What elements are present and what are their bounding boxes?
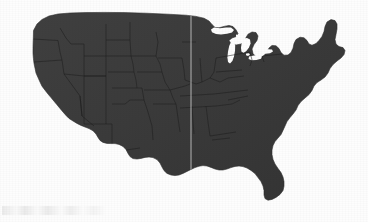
michigan-upper-peninsula-gap [236,35,244,39]
landmass-group [33,12,345,200]
border-vt-nh [268,32,270,44]
border-ny-vt-ma [258,38,262,56]
us-landmass-silhouette [33,12,345,200]
us-map-svg [0,0,368,222]
border-nh-me [276,30,280,40]
us-map-figure [0,0,368,222]
